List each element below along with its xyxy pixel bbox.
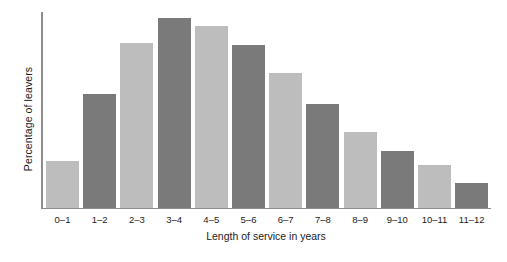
bar: [269, 73, 302, 208]
bar: [306, 104, 339, 208]
bar: [195, 26, 228, 208]
bars-layer: [41, 12, 491, 208]
x-axis-line: [41, 208, 491, 209]
plot-area: [41, 12, 491, 209]
bar: [83, 94, 116, 208]
x-axis-tick-labels: 0–11–22–33–44–55–66–77–88–99–1010–1111–1…: [41, 213, 491, 227]
bar: [418, 165, 451, 208]
bar: [158, 18, 191, 208]
bar: [381, 151, 414, 208]
y-axis-title: Percentage of leavers: [21, 19, 35, 219]
x-tick-label: 11–12: [449, 213, 495, 227]
bar: [232, 45, 265, 208]
bar: [120, 43, 153, 208]
bar-chart-figure: Percentage of leavers 0–11–22–33–44–55–6…: [0, 0, 507, 262]
bar: [455, 183, 488, 208]
bar: [46, 161, 79, 208]
bar: [344, 132, 377, 208]
x-axis-title: Length of service in years: [41, 229, 491, 243]
